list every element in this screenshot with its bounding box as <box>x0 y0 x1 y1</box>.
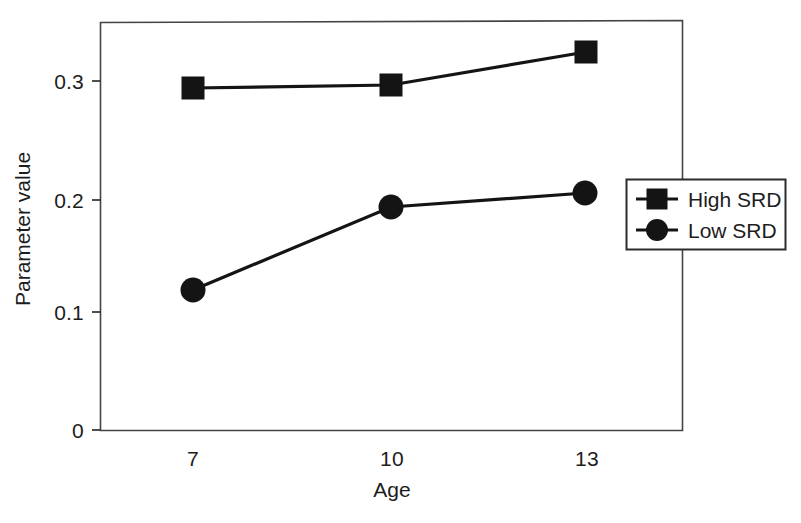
x-tick-label-13: 13 <box>575 448 599 469</box>
data-point-marker <box>573 181 598 206</box>
x-tick-label-7: 7 <box>187 448 199 469</box>
legend-label-high-srd: High SRD <box>688 189 781 210</box>
y-tick-label-0.3: 0.3 <box>26 71 84 92</box>
y-tick-label-0.1: 0.1 <box>26 302 84 323</box>
data-point-marker <box>182 77 205 100</box>
data-point-marker <box>380 74 403 97</box>
square-marker-icon <box>647 189 668 210</box>
series-low-srd <box>181 181 598 303</box>
data-point-marker <box>575 41 598 64</box>
circle-marker-icon <box>646 219 668 241</box>
legend-label-low-srd: Low SRD <box>688 220 777 241</box>
y-tick-label-0.2: 0.2 <box>26 190 84 211</box>
y-tick-label-0: 0 <box>26 420 84 441</box>
data-point-marker <box>379 195 404 220</box>
data-point-marker <box>181 278 206 303</box>
chart-figure: 0.3 0.2 0.1 0 7 10 13 Parameter value Ag… <box>0 0 801 523</box>
x-tick-label-10: 10 <box>380 448 404 469</box>
series-high-srd <box>182 41 598 100</box>
y-axis-title: Parameter value <box>12 152 33 306</box>
plot-canvas <box>0 0 801 523</box>
y-axis-ticks <box>92 81 101 430</box>
x-axis-title: Age <box>373 479 410 500</box>
